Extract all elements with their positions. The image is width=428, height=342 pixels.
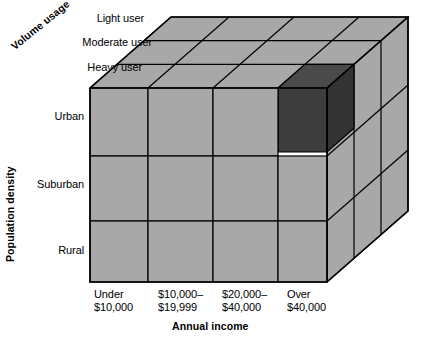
front-cell-suburban-20to40k[interactable] (213, 156, 278, 221)
front-cell-urban-10to19k[interactable] (148, 88, 213, 156)
col-label-over40k-line1: Over (287, 288, 367, 301)
front-cell-suburban-under10k[interactable] (90, 156, 148, 221)
col-label-under10k-line2: $10,000 (94, 301, 164, 314)
col-label-under10k-line1: Under (94, 288, 164, 301)
front-cell-rural-over40k[interactable] (278, 221, 327, 282)
row-label-urban: Urban (0, 110, 84, 123)
front-cell-rural-20to40k[interactable] (213, 221, 278, 282)
depth-label-light-user: Light user (4, 12, 144, 25)
front-cell-suburban-over40k[interactable] (278, 156, 327, 221)
axis-title-population-density: Population density (4, 166, 16, 262)
highlighted-cell-cube[interactable] (278, 64, 354, 152)
front-cell-suburban-10to19k[interactable] (148, 156, 213, 221)
depth-label-heavy-user: Heavy user (0, 61, 142, 74)
front-cell-rural-10to19k[interactable] (148, 221, 213, 282)
front-cell-urban-under10k[interactable] (90, 88, 148, 156)
segmentation-cube-figure: .face { stroke: #000000; stroke-width: 1… (0, 0, 428, 342)
front-cell-urban-20to40k[interactable] (213, 88, 278, 156)
axis-title-annual-income: Annual income (172, 320, 249, 332)
front-cell-rural-under10k[interactable] (90, 221, 148, 282)
col-label-over40k-line2: $40,000 (287, 301, 367, 314)
highlight-front-face (278, 88, 327, 152)
